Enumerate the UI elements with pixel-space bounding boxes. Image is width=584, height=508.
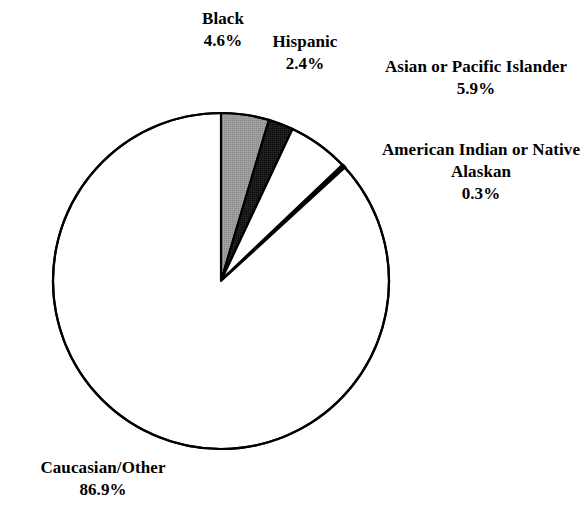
slice-label-hispanic-name: Hispanic bbox=[248, 31, 362, 53]
slice-label-caucasian-other-value: 86.9% bbox=[2, 479, 204, 501]
slice-label-hispanic-value: 2.4% bbox=[248, 53, 362, 75]
slice-label-hispanic: Hispanic 2.4% bbox=[248, 31, 362, 75]
pie-chart-figure: Black 4.6% Hispanic 2.4% Asian or Pacifi… bbox=[0, 0, 584, 508]
slice-label-american-indian-native-alaskan-name: American Indian or Native Alaskan bbox=[378, 139, 584, 183]
slice-label-caucasian-other-name: Caucasian/Other bbox=[2, 457, 204, 479]
pie-slices-group bbox=[53, 113, 389, 449]
slice-label-asian-pacific-islander: Asian or Pacific Islander 5.9% bbox=[368, 56, 584, 100]
slice-label-black-name: Black bbox=[168, 8, 278, 30]
slice-label-american-indian-native-alaskan-value: 0.3% bbox=[378, 183, 584, 205]
slice-label-american-indian-native-alaskan: American Indian or Native Alaskan 0.3% bbox=[378, 139, 584, 204]
slice-label-caucasian-other: Caucasian/Other 86.9% bbox=[2, 457, 204, 501]
slice-label-asian-pacific-islander-name: Asian or Pacific Islander bbox=[368, 56, 584, 78]
slice-label-asian-pacific-islander-value: 5.9% bbox=[368, 78, 584, 100]
